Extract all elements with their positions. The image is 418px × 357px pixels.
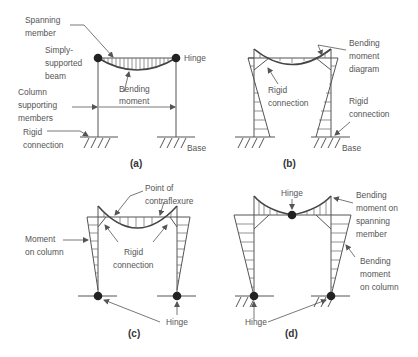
knee-right <box>316 58 331 70</box>
label: Simply- <box>45 45 73 55</box>
label: connection <box>349 109 390 119</box>
knee-left <box>254 215 269 229</box>
label: moment <box>349 51 380 61</box>
bending-moment-hatch <box>104 58 168 70</box>
label: Hinge <box>281 188 303 198</box>
label: Rigid <box>124 247 143 257</box>
label: diagram <box>349 64 379 74</box>
hinge-right <box>173 292 182 301</box>
bm-span-leader <box>334 198 353 203</box>
ground-hatch <box>84 138 186 148</box>
rigid-left-leader <box>268 68 278 84</box>
label: Bending <box>119 84 150 94</box>
ground-hatch <box>238 138 340 148</box>
label: members <box>18 113 53 123</box>
label: Hinge <box>166 317 188 327</box>
rigid-right-leader <box>153 225 167 242</box>
label: spanning <box>356 216 390 226</box>
label: connection <box>23 140 64 150</box>
caption-a: (a) <box>130 158 142 169</box>
label: Bending <box>349 38 380 48</box>
spanning-member-leader <box>70 25 113 57</box>
bmd-leader <box>318 45 346 55</box>
label: Rigid <box>349 96 368 106</box>
label: member <box>25 28 56 38</box>
label: Column <box>18 87 47 97</box>
panel-d: Hinge Bending moment on spanning member … <box>234 188 399 339</box>
label: Hinge <box>245 317 267 327</box>
label: Spanning <box>25 15 61 25</box>
knee-left <box>98 217 106 227</box>
label: Moment <box>25 234 56 244</box>
label: Base <box>342 143 361 153</box>
label: contraflexure <box>145 196 194 206</box>
label: Base <box>187 143 206 153</box>
hinge-right <box>327 292 336 301</box>
hinge-leader-left <box>104 300 160 322</box>
label: member <box>356 229 387 239</box>
label: Rigid <box>268 85 287 95</box>
label: moment on <box>356 203 398 213</box>
label: Bending <box>356 190 387 200</box>
caption-c: (c) <box>128 328 140 339</box>
contraflexure-leader <box>115 191 143 215</box>
panel-c: Point of contraflexure Moment on column … <box>25 183 196 339</box>
rigid-right-leader <box>335 122 350 135</box>
column-moment-right <box>316 58 338 137</box>
column-moment-left <box>87 217 98 290</box>
hinge-left <box>94 54 103 63</box>
knee-right <box>170 217 177 227</box>
hinge-left <box>250 292 259 301</box>
bending-moment-curve <box>254 49 331 65</box>
label: supported <box>45 58 83 68</box>
label: supporting <box>18 100 57 110</box>
label: Point of <box>145 183 174 193</box>
label: moment <box>360 269 391 279</box>
hinge-right <box>172 54 181 63</box>
label: moment <box>119 96 150 106</box>
panel-a: Spanning member Simply- supported beam H… <box>18 15 206 169</box>
caption-b: (b) <box>283 158 296 169</box>
panel-b: Bending moment diagram Rigid connection … <box>235 38 390 169</box>
label: connection <box>113 260 154 270</box>
column-moment-right <box>177 217 190 290</box>
rigid-connection-leader <box>47 131 88 136</box>
label: Hinge <box>184 53 206 63</box>
label: Rigid <box>23 127 42 137</box>
caption-d: (d) <box>285 328 298 339</box>
portal-frame-figure: Spanning member Simply- supported beam H… <box>0 0 418 357</box>
bm-col-leader <box>346 245 355 257</box>
label: connection <box>268 98 309 108</box>
hinge-left <box>94 292 103 301</box>
column-moment-left <box>234 215 254 296</box>
label: beam <box>45 71 66 81</box>
label: on column <box>360 282 399 292</box>
hinge-top <box>288 211 297 220</box>
knee-left <box>254 58 269 70</box>
rigid-left-leader <box>105 225 118 242</box>
label: on column <box>25 247 64 257</box>
hinge-bottom-leader-right <box>268 300 326 322</box>
label: Bending <box>360 256 391 266</box>
column-moment-left <box>248 58 270 137</box>
column-moment-right <box>331 215 351 296</box>
knee-right <box>316 215 331 229</box>
